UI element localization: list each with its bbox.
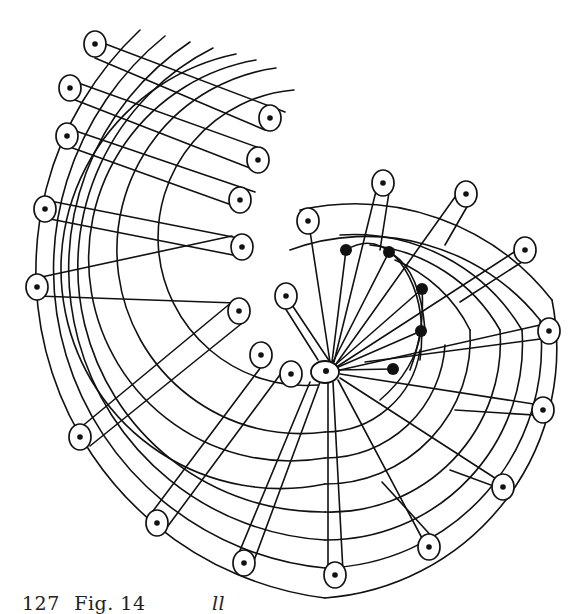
pin-loop — [372, 170, 394, 196]
pin-loop — [324, 562, 346, 588]
pin-loop — [84, 31, 106, 57]
pin-loop — [69, 424, 91, 450]
pin-loop — [229, 187, 251, 213]
inner-dot — [340, 244, 352, 256]
pin-loop — [297, 208, 319, 234]
pin-loop — [247, 147, 269, 173]
pin-loop — [538, 318, 560, 344]
pin-loop — [231, 234, 253, 260]
caption-fragment: ll — [212, 592, 225, 614]
pin-loop — [34, 196, 56, 222]
pin-loop — [280, 361, 302, 387]
outer-concentric-arcs — [36, 30, 325, 598]
pin-loop — [146, 510, 168, 536]
pin-loop — [233, 550, 255, 576]
pin-loop — [418, 534, 440, 560]
pin-loop — [492, 474, 514, 500]
pin-loop — [56, 123, 78, 149]
pin-loop — [455, 181, 477, 207]
pin-loop — [228, 298, 250, 324]
inner-dot — [387, 363, 399, 375]
pin-loop — [250, 342, 272, 368]
pin-loops — [26, 31, 560, 588]
pin-loop — [259, 105, 281, 131]
inner-dot — [383, 246, 395, 258]
pin-loop — [532, 397, 554, 423]
pin-loop — [26, 274, 48, 300]
caption-number: 127 — [22, 592, 60, 614]
inner-dot — [415, 325, 427, 337]
inner-dot — [416, 283, 428, 295]
pin-loop — [59, 75, 81, 101]
pin-loop — [275, 283, 297, 309]
pin-loop — [514, 237, 536, 263]
caption-label: Fig. 14 — [74, 592, 145, 614]
central-hub — [311, 361, 339, 383]
figure-caption: 127 Fig. 14 ll — [22, 592, 225, 614]
